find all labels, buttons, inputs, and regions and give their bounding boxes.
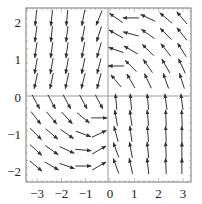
x-tick-label: −3: [30, 186, 44, 201]
x-tick-label: 3: [180, 186, 187, 201]
vector-arrow: [177, 28, 187, 41]
vector-arrow: [123, 32, 138, 36]
vector-arrow: [142, 44, 153, 55]
y-tick-labels: 210−1−2: [7, 15, 21, 179]
vector-arrow: [166, 158, 167, 174]
vector-arrow: [48, 95, 56, 109]
vector-arrow: [166, 142, 167, 158]
y-tick-label: −1: [7, 127, 21, 142]
vector-arrow: [77, 113, 89, 123]
vector-arrow: [109, 47, 124, 52]
vector-arrow: [66, 26, 68, 42]
vector-arrow: [51, 42, 53, 58]
vector-arrow: [51, 26, 53, 42]
vector-arrow: [30, 145, 42, 156]
vector-arrow: [82, 10, 85, 26]
vector-arrow: [160, 13, 172, 23]
vector-arrow: [161, 44, 171, 57]
vector-arrow: [97, 42, 101, 57]
vector-arrow: [66, 42, 68, 58]
vector-arrow: [180, 73, 185, 88]
vector-arrow: [178, 43, 187, 57]
vector-arrow: [160, 28, 171, 39]
vector-arrow: [113, 159, 119, 174]
vector-arrow: [30, 161, 42, 171]
vector-arrow: [62, 112, 73, 124]
vector-arrow: [130, 142, 133, 158]
vector-arrow: [50, 73, 53, 89]
vector-arrow: [113, 142, 119, 157]
vector-arrow: [162, 59, 170, 73]
vector-arrow: [130, 126, 132, 142]
vector-arrow: [35, 10, 36, 26]
vector-arrow: [145, 74, 152, 89]
vector-arrow: [124, 46, 138, 54]
vector-arrow: [92, 146, 106, 154]
y-tick-label: 1: [15, 52, 22, 67]
vector-arrow: [125, 60, 136, 71]
vector-arrow: [129, 158, 132, 174]
vector-arrow: [95, 95, 103, 109]
vector-arrow: [182, 110, 183, 126]
vector-arrow: [60, 163, 75, 168]
vector-arrow: [127, 74, 135, 88]
vector-arrow: [147, 110, 148, 126]
vector-arrow: [92, 131, 107, 138]
vector-arrow: [110, 13, 123, 22]
vector-arrow: [97, 73, 101, 89]
vector-arrow: [66, 10, 67, 26]
vector-arrow: [143, 60, 152, 73]
vector-arrow: [111, 75, 121, 87]
vector-arrow: [81, 73, 85, 89]
vector-arrow: [51, 10, 53, 26]
x-tick-label: 0: [107, 186, 114, 201]
vector-arrow: [141, 29, 154, 38]
vector-arrow: [166, 110, 167, 126]
vector-arrow: [34, 73, 37, 89]
vector-arrow: [35, 58, 38, 74]
vector-arrow: [60, 129, 73, 138]
vector-arrow: [179, 59, 186, 74]
vector-arrow: [177, 12, 187, 24]
y-tick-label: −2: [7, 164, 21, 179]
vector-arrow: [141, 15, 156, 22]
vector-arrow: [35, 42, 37, 58]
x-tick-labels: −3−2−10123: [30, 186, 186, 201]
vector-arrow: [82, 42, 85, 58]
vector-arrow: [115, 110, 118, 126]
vector-arrow: [65, 73, 68, 89]
vector-arrow: [75, 149, 91, 150]
vector-arrow: [63, 95, 70, 109]
vector-arrow: [45, 162, 59, 170]
vector-arrow: [60, 147, 74, 154]
y-tick-label: 2: [15, 15, 22, 30]
vector-arrow: [96, 11, 102, 26]
vector-arrow: [147, 158, 149, 174]
vector-arrow: [97, 26, 102, 41]
vector-arrow: [32, 95, 40, 109]
vector-arrow: [80, 95, 88, 109]
vector-arrow: [166, 126, 167, 142]
vector-arrow: [114, 126, 118, 142]
vector-arrow: [82, 26, 85, 42]
vector-field-plot: −3−2−10123 210−1−2: [0, 0, 202, 204]
y-tick-label: 0: [15, 90, 22, 105]
vector-arrow: [45, 145, 58, 154]
vector-arrow: [109, 30, 123, 38]
vector-arrow: [66, 58, 69, 74]
vector-arrow: [47, 112, 57, 124]
vector-arrow: [76, 131, 91, 137]
x-tick-label: 2: [155, 186, 162, 201]
vector-arrow: [50, 58, 53, 74]
x-tick-label: 1: [131, 186, 138, 201]
vector-arrow: [97, 58, 101, 74]
vector-arrow: [31, 112, 41, 125]
x-tick-label: −1: [79, 186, 93, 201]
vector-arrow: [130, 110, 132, 126]
vector-arrow: [82, 58, 85, 74]
vector-arrow: [147, 142, 148, 158]
vector-arrow: [46, 129, 58, 139]
vector-arrow: [147, 126, 148, 142]
vector-arrow: [35, 26, 37, 42]
vector-arrow: [92, 162, 106, 170]
